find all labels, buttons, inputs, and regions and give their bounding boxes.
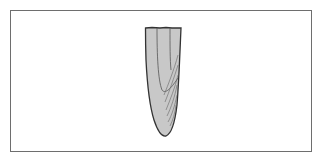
specimen-drawing: [0, 0, 324, 158]
